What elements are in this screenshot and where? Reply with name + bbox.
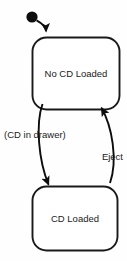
transition-label-eject: Eject bbox=[102, 151, 123, 162]
state-diagram: No CD Loaded CD Loaded (CD in drawer) Ej… bbox=[0, 0, 127, 261]
state-label-cd-loaded: CD Loaded bbox=[51, 213, 99, 224]
transition-label-load: (CD in drawer) bbox=[4, 129, 66, 140]
state-diagram-canvas: No CD Loaded CD Loaded (CD in drawer) Ej… bbox=[0, 0, 127, 261]
transition-arrow-eject[interactable] bbox=[102, 108, 114, 183]
initial-transition-arrow bbox=[37, 20, 47, 31]
state-label-no-cd-loaded: No CD Loaded bbox=[45, 68, 108, 79]
transition-arrow-load[interactable] bbox=[39, 104, 49, 185]
initial-state-dot bbox=[26, 11, 37, 22]
